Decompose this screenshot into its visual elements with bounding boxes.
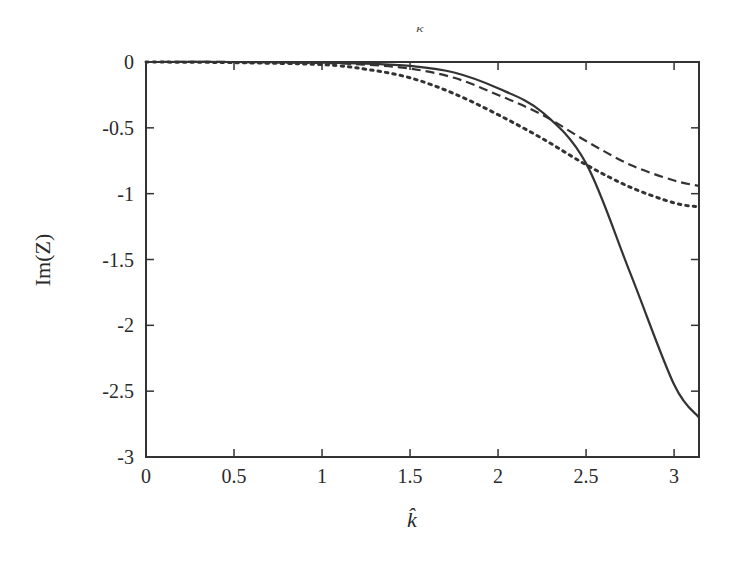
y-tick-label: -2.5	[102, 380, 134, 402]
y-tick-label: -2	[117, 314, 134, 336]
line-chart: 00.511.522.530-0.5-1-1.5-2-2.5-3 k̂ Im(Z…	[0, 0, 741, 562]
y-tick-label: 0	[124, 51, 134, 73]
x-tick-label: 3	[669, 465, 679, 487]
y-tick-label: -3	[117, 446, 134, 468]
x-tick-label: 0.5	[222, 465, 247, 487]
y-tick-label: -0.5	[102, 117, 134, 139]
plot-frame	[146, 62, 699, 457]
axis-ticks: 00.511.522.530-0.5-1-1.5-2-2.5-3	[102, 51, 699, 487]
x-tick-label: 2	[493, 465, 503, 487]
y-tick-label: -1.5	[102, 249, 134, 271]
y-tick-label: -1	[117, 183, 134, 205]
series-group	[146, 62, 699, 418]
plot-border	[146, 62, 699, 457]
x-tick-label: 2.5	[574, 465, 599, 487]
series-dotted-line	[146, 62, 699, 207]
x-tick-label: 1.5	[398, 465, 423, 487]
x-tick-label: 0	[141, 465, 151, 487]
series-solid-line	[146, 62, 699, 418]
x-tick-label: 1	[317, 465, 327, 487]
y-axis-label: Im(Z)	[30, 234, 55, 287]
x-axis-label: k̂	[407, 507, 418, 532]
